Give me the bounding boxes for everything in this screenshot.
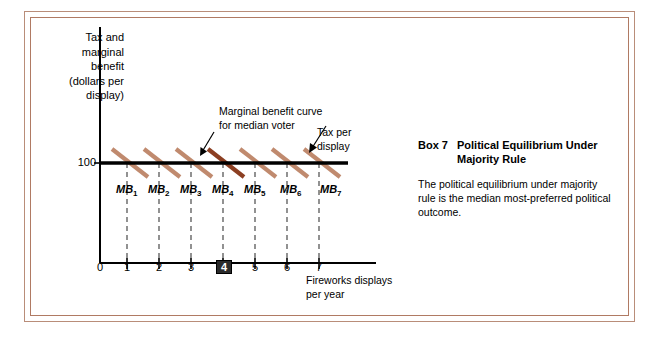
mb-label-5-sub: 5	[261, 189, 265, 198]
box-heading: Box 7 Political Equilibrium Under Majori…	[418, 138, 616, 166]
x-tick-label-6: 6	[279, 261, 295, 273]
x-tick-label-4-highlighted: 4	[216, 260, 232, 274]
mb-label-6-sub: 6	[297, 189, 301, 198]
box-body: The political equilibrium under majority…	[418, 177, 616, 219]
x-tick-label-0: 0	[92, 261, 108, 273]
mb-label-6: MB6	[280, 183, 302, 198]
chart-panel: Tax and marginal benefit (dollars per di…	[36, 22, 406, 312]
mb-label-5: MB5	[244, 183, 266, 198]
y-axis-title: Tax and marginal benefit (dollars per di…	[32, 30, 124, 103]
mb-label-4: MB4	[212, 183, 234, 198]
mb-label-6-text: MB	[280, 183, 297, 195]
mb-label-7-text: MB	[320, 183, 337, 195]
mb-label-4-text: MB	[212, 183, 229, 195]
mb-label-1-sub: 1	[133, 189, 137, 198]
mb-label-7: MB7	[320, 183, 342, 198]
mb-label-1: MB1	[116, 183, 138, 198]
mb-label-3-sub: 3	[197, 189, 201, 198]
mb-label-7-sub: 7	[337, 189, 341, 198]
dashed-guidelines	[127, 163, 319, 258]
mb-label-2-text: MB	[148, 183, 165, 195]
x-tick-label-7: 7	[311, 261, 327, 273]
annotation-tax-per-display: Tax per display	[317, 126, 351, 153]
box-panel: Box 7 Political Equilibrium Under Majori…	[418, 138, 616, 219]
mb-label-4-sub: 4	[229, 189, 233, 198]
mb-label-2: MB2	[148, 183, 170, 198]
mb-label-5-text: MB	[244, 183, 261, 195]
x-tick-label-1: 1	[119, 261, 135, 273]
mb-label-3: MB3	[180, 183, 202, 198]
box-title: Political Equilibrium Under Majority Rul…	[457, 138, 616, 166]
x-tick-label-3: 3	[183, 261, 199, 273]
y-tick-label-100: 100	[64, 156, 96, 168]
figure-root: Tax and marginal benefit (dollars per di…	[0, 0, 668, 341]
x-tick-label-2: 2	[151, 261, 167, 273]
annotation-median-voter: Marginal benefit curve for median voter	[219, 105, 322, 132]
x-tick-label-5: 5	[247, 261, 263, 273]
mb-label-1-text: MB	[116, 183, 133, 195]
mb-label-2-sub: 2	[165, 189, 169, 198]
box-number: Box 7	[418, 138, 448, 152]
x-axis-title: Fireworks displays per year	[306, 274, 392, 301]
mb-label-3-text: MB	[180, 183, 197, 195]
